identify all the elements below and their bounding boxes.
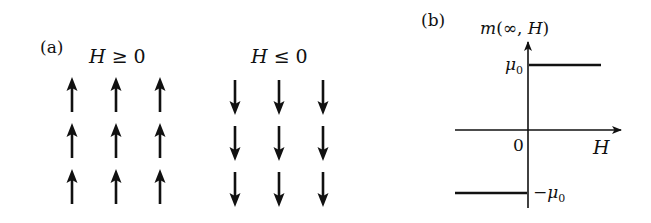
panel-a-label: (a) bbox=[40, 39, 63, 56]
condition-value: 0 bbox=[296, 45, 308, 67]
lower-level-label: −μ0 bbox=[533, 184, 565, 204]
up-arrow-icon bbox=[67, 77, 78, 112]
up-arrow-icon bbox=[67, 123, 78, 158]
condition-value: 0 bbox=[134, 45, 146, 67]
down-arrow-icon bbox=[318, 80, 329, 115]
up-arrow-icon bbox=[111, 77, 122, 112]
y-axis-label-args: (∞, bbox=[496, 18, 528, 38]
down-arrow-icon bbox=[274, 172, 285, 207]
condition-var: H bbox=[89, 45, 106, 67]
condition-var: H bbox=[251, 45, 268, 67]
up-arrow-icon bbox=[155, 77, 166, 112]
up-arrow-icon bbox=[155, 123, 166, 158]
y-axis-label-suffix: ) bbox=[543, 18, 550, 38]
x-axis-label-var: H bbox=[593, 136, 610, 158]
origin-label: 0 bbox=[513, 137, 524, 154]
up-arrow-icon bbox=[67, 169, 78, 204]
up-spin-arrows bbox=[67, 77, 166, 204]
down-spin-arrows bbox=[230, 80, 329, 207]
condition-h-leq-zero: H ≤ 0 bbox=[251, 47, 308, 66]
down-arrow-icon bbox=[274, 80, 285, 115]
down-arrow-icon bbox=[230, 80, 241, 115]
mu-symbol: μ bbox=[547, 182, 558, 202]
panel-b-label: (b) bbox=[421, 12, 445, 29]
condition-op: ≥ bbox=[112, 45, 128, 67]
down-arrow-icon bbox=[274, 126, 285, 161]
down-arrow-icon bbox=[230, 126, 241, 161]
down-arrow-icon bbox=[230, 172, 241, 207]
down-arrow-icon bbox=[318, 126, 329, 161]
y-axis-label-prefix: m bbox=[480, 18, 496, 38]
mu-subscript: 0 bbox=[558, 192, 565, 205]
minus-sign: − bbox=[533, 182, 547, 202]
x-axis-label: H bbox=[593, 138, 610, 157]
up-arrow-icon bbox=[111, 123, 122, 158]
upper-level-label: μ0 bbox=[505, 56, 523, 76]
up-arrow-icon bbox=[111, 169, 122, 204]
up-arrow-icon bbox=[155, 169, 166, 204]
mu-subscript: 0 bbox=[516, 64, 523, 77]
y-axis-label: m(∞, H) bbox=[480, 20, 549, 37]
condition-h-geq-zero: H ≥ 0 bbox=[89, 47, 146, 66]
figure: (a) H ≥ 0 H ≤ 0 (b) m(∞, H) μ0 0 H −μ0 bbox=[0, 0, 651, 223]
y-axis-label-var: H bbox=[528, 18, 543, 38]
down-arrow-icon bbox=[318, 172, 329, 207]
condition-op: ≤ bbox=[274, 45, 290, 67]
mu-symbol: μ bbox=[505, 54, 516, 74]
